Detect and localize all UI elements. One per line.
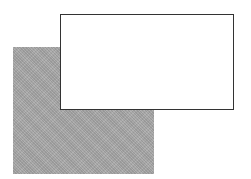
diagram-canvas (0, 0, 251, 179)
white-outlined-rectangle (60, 14, 234, 110)
